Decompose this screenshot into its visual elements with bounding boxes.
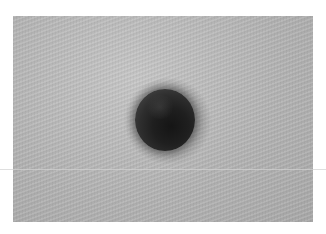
scan-line-divider (0, 169, 326, 170)
skin-photo (13, 16, 313, 222)
mole (135, 89, 195, 151)
